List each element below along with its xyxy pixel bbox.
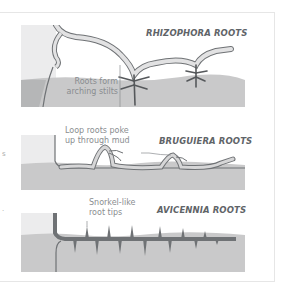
bruguiera-title: BRUGUIERA ROOTS — [159, 136, 252, 146]
callout-line: up through mud — [65, 136, 130, 146]
rhizophora-callout: Roots form arching stilts — [51, 77, 118, 97]
rhizophora-panel: RHIZOPHORA ROOTS Roots form arching stil… — [21, 25, 245, 107]
callout-line: arching stilts — [51, 87, 118, 97]
avicennia-illustration — [21, 213, 245, 272]
callout-line: Loop roots poke — [65, 126, 130, 136]
stray-mark: s — [2, 150, 6, 158]
callout-line: Roots form — [51, 77, 118, 87]
avicennia-panel: AVICENNIA ROOTS Snorkel-like root tips — [21, 213, 245, 272]
callout-line: root tips — [89, 208, 135, 218]
stray-mark: . — [2, 205, 4, 213]
callout-line: Snorkel-like — [89, 198, 135, 208]
bruguiera-callout: Loop roots poke up through mud — [65, 126, 130, 146]
avicennia-title: AVICENNIA ROOTS — [157, 205, 246, 215]
avicennia-callout: Snorkel-like root tips — [89, 198, 135, 218]
bruguiera-panel: BRUGUIERA ROOTS Loop roots poke up throu… — [21, 135, 245, 190]
rhizophora-title: RHIZOPHORA ROOTS — [146, 28, 247, 38]
